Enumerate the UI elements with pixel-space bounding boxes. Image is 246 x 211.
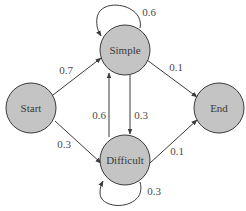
- edge-label-simple-difficult: 0.3: [134, 109, 148, 121]
- edge-label-start-simple: 0.7: [59, 64, 73, 76]
- edge-label-simple-end: 0.1: [169, 61, 183, 73]
- node-simple: Simple: [100, 25, 150, 75]
- node-difficult: Difficult: [100, 135, 150, 185]
- node-simple-label: Simple: [109, 44, 140, 56]
- node-start-label: Start: [21, 102, 42, 114]
- node-end-label: End: [210, 102, 228, 114]
- node-difficult-label: Difficult: [106, 154, 144, 166]
- edge-label-simple-self: 0.6: [142, 6, 156, 18]
- node-start: Start: [6, 83, 56, 133]
- node-end: End: [194, 83, 244, 133]
- state-diagram: Start Simple Difficult End 0.7 0.3 0.6 0…: [0, 0, 246, 211]
- edge-label-difficult-simple: 0.6: [92, 109, 106, 121]
- edge-label-start-difficult: 0.3: [57, 138, 71, 150]
- edge-label-difficult-end: 0.1: [170, 145, 184, 157]
- edge-label-difficult-self: 0.3: [147, 185, 161, 197]
